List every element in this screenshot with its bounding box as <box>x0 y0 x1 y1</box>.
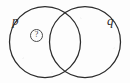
set-label-q: q <box>107 14 114 27</box>
set-circle-p <box>10 7 81 78</box>
region-marker-p-only: ? <box>30 29 43 42</box>
set-label-p: p <box>12 14 19 27</box>
venn-diagram-figure: p q ? <box>0 0 130 83</box>
